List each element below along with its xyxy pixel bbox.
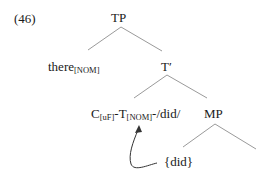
branch-tbar-head: [134, 75, 167, 98]
branch-tp-spec: [88, 27, 121, 50]
example-number: (46): [14, 12, 36, 25]
movement-arrow: [130, 130, 157, 168]
branch-mp-right: [215, 124, 256, 149]
node-mp: MP: [204, 107, 223, 120]
node-tbar: T′: [161, 60, 172, 73]
node-tp: TP: [111, 11, 126, 24]
node-there: there[NOM]: [48, 60, 99, 75]
branch-tp-tbar: [121, 27, 162, 51]
node-head: C[uF]-T[NOM]-/did/: [91, 107, 180, 122]
branch-tbar-mp: [167, 75, 207, 98]
branch-mp-left: [183, 124, 215, 147]
node-moved-did: {did}: [164, 155, 193, 168]
tree-branches: [0, 0, 269, 178]
arrowhead-icon: [135, 125, 142, 133]
